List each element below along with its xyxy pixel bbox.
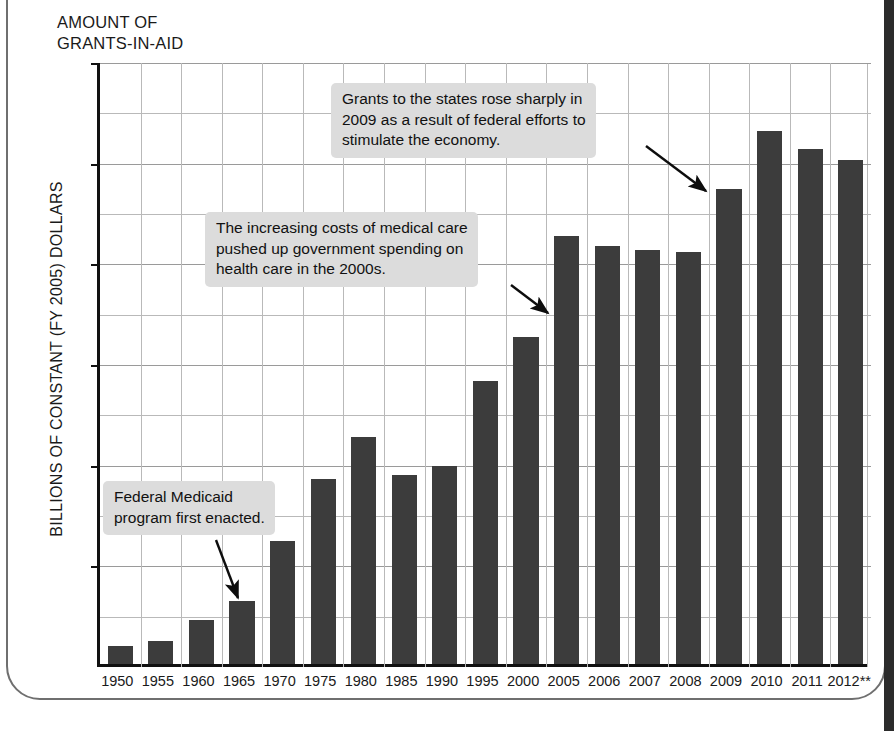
- arrow-to-1965: [216, 540, 238, 598]
- bar-chart: AMOUNT OF GRANTS-IN-AID BILLIONS OF CONS…: [0, 0, 894, 731]
- arrow-to-2009: [646, 146, 706, 191]
- arrow-to-2005: [511, 285, 548, 313]
- callout-arrows: [0, 0, 894, 731]
